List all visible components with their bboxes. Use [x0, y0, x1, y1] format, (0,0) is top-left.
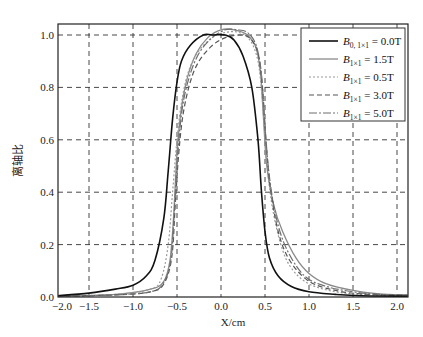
x-tick-label: 1.0 — [302, 300, 316, 312]
x-tick-label: 2.0 — [390, 300, 404, 312]
x-tick-label: −2.0 — [52, 300, 72, 312]
y-tick-label: 1.0 — [40, 29, 54, 41]
x-tick-label: 0.0 — [214, 300, 228, 312]
x-axis-label: X/cm — [221, 316, 246, 328]
y-tick-label: 0.6 — [40, 134, 54, 146]
x-tick-label: −0.5 — [167, 300, 187, 312]
y-tick-label: 0.0 — [40, 291, 54, 303]
y-axis-label: 离轴比 — [11, 144, 24, 177]
y-axis-ticks: 0.00.20.40.60.81.0 — [40, 29, 54, 303]
x-tick-label: −1.5 — [79, 300, 99, 312]
legend: B0, 1×1 = 0.0TB1×1 = 1.5TB1×1 = 0.5TB1×1… — [301, 28, 405, 122]
y-tick-label: 0.4 — [40, 186, 54, 198]
x-tick-label: 0.5 — [258, 300, 272, 312]
y-tick-label: 0.8 — [40, 81, 54, 93]
x-axis-ticks: −2.0−1.5−1.0−0.50.00.51.01.52.0 — [52, 300, 404, 312]
x-tick-label: 1.5 — [346, 300, 360, 312]
x-tick-label: −1.0 — [123, 300, 143, 312]
y-tick-label: 0.2 — [40, 239, 54, 251]
figure-caption — [0, 329, 423, 337]
chart: −2.0−1.5−1.0−0.50.00.51.01.52.0 0.00.20.… — [0, 0, 423, 337]
